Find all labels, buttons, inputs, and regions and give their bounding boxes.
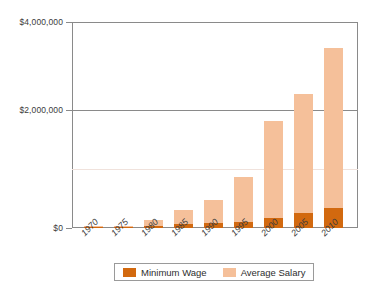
bar-segment-average-salary xyxy=(324,48,343,208)
y-tick-label-0: $0 xyxy=(0,223,63,233)
bar-group-2005[interactable] xyxy=(294,94,313,228)
bar-segment-average-salary xyxy=(234,177,253,223)
legend-item-average-salary[interactable]: Average Salary xyxy=(223,267,306,278)
chart-legend: Minimum Wage Average Salary xyxy=(114,263,314,281)
bars-layer xyxy=(72,22,358,228)
legend-item-minimum-wage[interactable]: Minimum Wage xyxy=(123,267,207,278)
bar-group-2000[interactable] xyxy=(264,121,283,228)
bar-segment-average-salary xyxy=(264,121,283,218)
bar-segment-average-salary xyxy=(294,94,313,212)
y-tick-label-2000000: $2,000,000 xyxy=(0,105,63,115)
bar-chart: $4,000,000 $2,000,000 $0 xyxy=(0,0,371,292)
legend-label-minimum-wage: Minimum Wage xyxy=(141,267,207,278)
bar-group-2010[interactable] xyxy=(324,48,343,228)
y-tick-label-4000000: $4,000,000 xyxy=(0,17,63,27)
legend-swatch-average-salary-icon xyxy=(223,268,236,277)
legend-label-average-salary: Average Salary xyxy=(241,267,306,278)
x-axis: 1970 1975 1980 1985 1990 1995 2000 2005 … xyxy=(72,229,358,261)
legend-swatch-minimum-wage-icon xyxy=(123,268,136,277)
